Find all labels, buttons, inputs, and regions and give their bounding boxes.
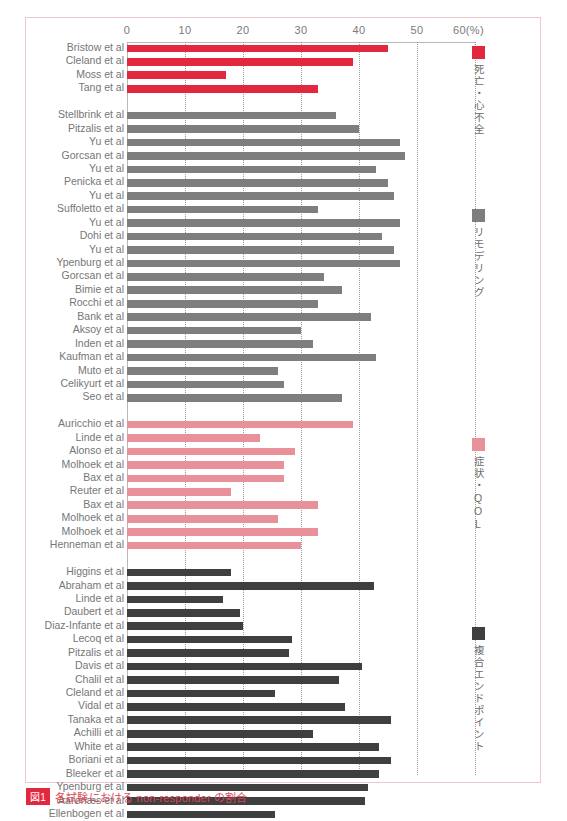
- legend-label-composite: 複合エンドポイント: [471, 645, 485, 753]
- bar: [127, 811, 275, 819]
- legend-item-symptoms_qol: 症状・QOL: [458, 438, 498, 535]
- legend-item-composite: 複合エンドポイント: [458, 627, 498, 757]
- figure-caption-text: 各試験における non-responder の割合: [55, 792, 248, 804]
- legend-swatch-remodeling: [472, 209, 485, 222]
- legend-item-mortality: 死亡・心不全: [458, 46, 498, 140]
- legend-swatch-mortality: [472, 46, 485, 59]
- bar-row-label: Ellenbogen et al: [0, 807, 124, 820]
- legend-label-symptoms_qol: 症状・QOL: [471, 456, 485, 531]
- legend-swatch-symptoms_qol: [472, 438, 485, 451]
- legend-item-remodeling: リモデリング: [458, 209, 498, 303]
- legend-label-mortality: 死亡・心不全: [471, 64, 485, 136]
- figure-number: 図1: [26, 788, 50, 805]
- figure-caption: 図1各試験における non-responder の割合: [26, 788, 248, 805]
- bar-row: Ellenbogen et al: [0, 808, 567, 821]
- legend-label-remodeling: リモデリング: [471, 227, 485, 299]
- legend-swatch-composite: [472, 627, 485, 640]
